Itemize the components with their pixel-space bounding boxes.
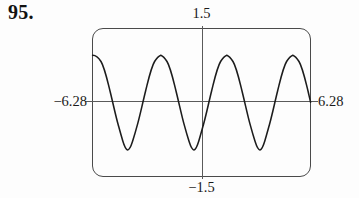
y-min-label: −1.5 <box>92 180 311 195</box>
x-max-label: 6.28 <box>318 94 343 109</box>
plotted-curve <box>92 28 311 177</box>
calculator-viewing-window <box>92 28 311 177</box>
x-min-label: −6.28 <box>53 94 87 109</box>
figure-container: 95. 1.5 −1.5 −6.28 6.28 <box>0 0 359 198</box>
y-max-label: 1.5 <box>92 6 311 21</box>
cosine-curve-path <box>93 55 311 150</box>
exercise-number: 95. <box>8 2 34 22</box>
